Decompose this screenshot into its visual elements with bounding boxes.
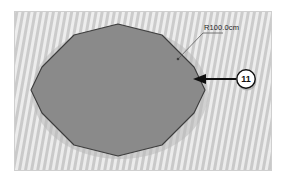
figure-root: R100.0cm 11 [0, 0, 282, 182]
radius-leader-endpoint [177, 58, 180, 61]
drawing-panel: R100.0cm 11 [14, 11, 272, 171]
drawing-canvas: R100.0cm 11 [14, 11, 272, 171]
radius-dimension-label: R100.0cm [204, 23, 239, 32]
item-balloon-label: 11 [241, 74, 251, 84]
